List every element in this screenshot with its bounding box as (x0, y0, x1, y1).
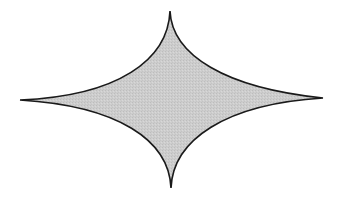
astroid-shape (20, 11, 323, 188)
astroid-diagram (0, 0, 341, 199)
